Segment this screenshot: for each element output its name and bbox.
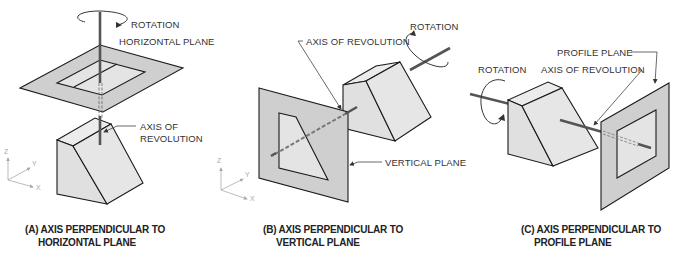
rotation-label-b: ROTATION [410, 21, 458, 32]
view-b [221, 30, 450, 202]
caption-c-line1: (C) AXIS PERPENDICULAR TO [521, 224, 661, 235]
caption-c: (C) AXIS PERPENDICULAR TO PROFILE PLANE [521, 223, 661, 249]
rotation-arrow-icon [78, 11, 127, 25]
caption-a: (A) AXIS PERPENDICULAR TO HORIZONTAL PLA… [25, 223, 165, 249]
view-c [470, 52, 669, 210]
caption-b: (B) AXIS PERPENDICULAR TO VERTICAL PLANE [263, 223, 403, 249]
axis-label-a-line1: AXIS OF [140, 121, 178, 132]
plane-leader-b [350, 162, 382, 165]
plane-label-a: HORIZONTAL PLANE [119, 36, 215, 47]
axis-x-label-b: X [250, 195, 255, 202]
axis-y-label-b: Y [245, 171, 250, 178]
plane-label-c: PROFILE PLANE [557, 47, 633, 58]
caption-b-line2: VERTICAL PLANE [263, 236, 403, 249]
plane-label-b: VERTICAL PLANE [385, 157, 466, 168]
axis-z-label-b: Z [217, 157, 221, 164]
axis-x-label-a: X [36, 184, 41, 191]
caption-a-line2: HORIZONTAL PLANE [25, 236, 165, 249]
axis-rod-c-left [470, 94, 510, 104]
rotation-label-c: ROTATION [478, 64, 526, 75]
axis-z-label-a: Z [4, 148, 8, 155]
caption-b-line1: (B) AXIS PERPENDICULAR TO [263, 224, 403, 235]
caption-a-line1: (A) AXIS PERPENDICULAR TO [25, 224, 165, 235]
rotation-label-a: ROTATION [131, 19, 179, 30]
axis-label-b: AXIS OF REVOLUTION [306, 36, 410, 47]
axis-label-a-line2: REVOLUTION [140, 133, 203, 144]
axis-leader-b [298, 41, 341, 109]
coordinate-axes-a [8, 158, 33, 187]
axis-label-c: AXIS OF REVOLUTION [541, 64, 645, 75]
coordinate-axes-b [221, 168, 247, 199]
caption-c-line2: PROFILE PLANE [521, 236, 661, 249]
axis-y-label-a: Y [32, 160, 37, 167]
